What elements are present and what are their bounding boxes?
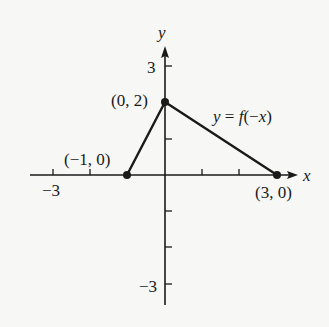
curve-label-eq: = <box>221 107 239 126</box>
curve-label: y = f(−x) <box>211 107 272 126</box>
curve-label-y: y <box>211 107 221 126</box>
point-label-neg1-0: (−1, 0) <box>64 150 110 169</box>
curve-label-close: ) <box>266 107 272 126</box>
curve-label-arg: (− <box>243 107 258 126</box>
tick-label-y-neg3: −3 <box>139 277 157 296</box>
point-marker-0-2 <box>161 98 169 106</box>
point-label-0-2: (0, 2) <box>111 91 148 110</box>
tick-label-x-neg3: −3 <box>42 181 60 200</box>
x-ticks <box>53 169 239 175</box>
point-marker-neg1-0 <box>123 171 131 179</box>
point-label-3-0: (3, 0) <box>255 183 292 202</box>
y-axis-label: y <box>156 23 166 42</box>
x-axis-label: x <box>302 166 311 185</box>
graph: x y −3 3 −3 (−1, 0) (0, 2) (3, 0) y = f(… <box>0 0 329 327</box>
tick-label-y-3: 3 <box>147 58 156 77</box>
point-marker-3-0 <box>273 171 281 179</box>
